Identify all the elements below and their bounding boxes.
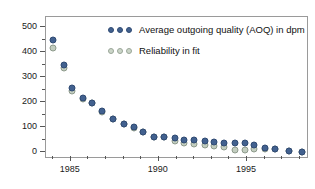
x-tick xyxy=(158,156,159,161)
y-tick-label: 400 xyxy=(0,46,37,56)
y-tick xyxy=(40,76,45,77)
y-tick-label: 200 xyxy=(0,96,37,106)
legend-item-reliability: Reliability in fit xyxy=(108,43,305,58)
y-tick-label: 300 xyxy=(0,71,37,81)
data-point xyxy=(139,128,146,135)
data-point xyxy=(251,142,258,149)
x-tick-minor xyxy=(299,156,300,159)
y-tick-minor xyxy=(42,114,45,115)
x-tick-minor xyxy=(211,156,212,159)
legend-label-aoq: Average outgoing quality (AOQ) in dpm xyxy=(139,24,305,35)
data-point xyxy=(242,146,249,153)
data-point xyxy=(50,45,57,52)
data-point xyxy=(261,144,268,151)
chart-legend: Average outgoing quality (AOQ) in dpm Re… xyxy=(108,22,305,64)
x-tick xyxy=(70,156,71,161)
x-tick-minor xyxy=(264,156,265,159)
data-point xyxy=(180,136,187,143)
x-tick-minor xyxy=(140,156,141,159)
data-point xyxy=(80,94,87,101)
data-point xyxy=(150,133,157,140)
data-point xyxy=(131,123,138,130)
data-point xyxy=(231,146,238,153)
data-point xyxy=(171,135,178,142)
data-point xyxy=(298,148,305,155)
data-point xyxy=(272,146,279,153)
x-tick-minor xyxy=(281,156,282,159)
data-point xyxy=(69,85,76,92)
y-tick xyxy=(40,26,45,27)
data-point xyxy=(120,120,127,127)
data-point xyxy=(191,137,198,144)
x-tick-label: 1995 xyxy=(236,164,256,174)
y-tick-minor xyxy=(42,89,45,90)
data-point xyxy=(210,139,217,146)
data-point xyxy=(242,140,249,147)
x-tick-minor xyxy=(193,156,194,159)
data-point xyxy=(88,100,95,107)
y-tick-minor xyxy=(42,39,45,40)
y-tick xyxy=(40,51,45,52)
data-point xyxy=(231,140,238,147)
x-tick xyxy=(246,156,247,161)
x-tick-minor xyxy=(52,156,53,159)
x-tick-label: 1985 xyxy=(60,164,80,174)
data-point xyxy=(60,62,67,69)
y-tick-minor xyxy=(42,139,45,140)
x-tick-minor xyxy=(123,156,124,159)
x-tick-minor xyxy=(228,156,229,159)
x-tick-label: 1990 xyxy=(148,164,168,174)
legend-item-aoq: Average outgoing quality (AOQ) in dpm xyxy=(108,22,305,37)
x-tick-minor xyxy=(87,156,88,159)
scatter-chart: 0100200300400500 198519901995 Average ou… xyxy=(0,0,315,189)
data-point xyxy=(50,36,57,43)
legend-marker-aoq xyxy=(108,27,132,33)
y-tick xyxy=(40,101,45,102)
y-tick xyxy=(40,151,45,152)
y-tick-label: 0 xyxy=(0,146,37,156)
data-point xyxy=(286,147,293,154)
x-tick-minor xyxy=(105,156,106,159)
legend-label-reliability: Reliability in fit xyxy=(139,45,200,56)
x-tick-minor xyxy=(176,156,177,159)
y-tick-label: 500 xyxy=(0,21,37,31)
data-point xyxy=(221,140,228,147)
y-tick xyxy=(40,126,45,127)
data-point xyxy=(161,133,168,140)
y-tick-minor xyxy=(42,64,45,65)
data-point xyxy=(110,115,117,122)
data-point xyxy=(201,138,208,145)
y-tick-label: 100 xyxy=(0,121,37,131)
legend-marker-reliability xyxy=(108,48,132,54)
data-point xyxy=(99,108,106,115)
